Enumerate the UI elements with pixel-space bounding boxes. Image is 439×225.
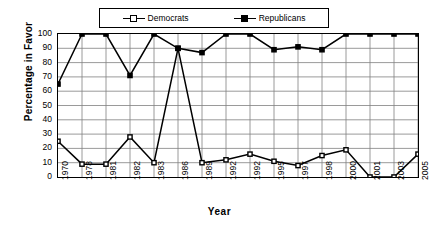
x-tick-label: 1982 <box>133 161 142 180</box>
x-tick-label: 1986 <box>181 161 190 180</box>
x-axis-title: Year <box>0 206 439 217</box>
y-tick-label: 90 <box>30 43 52 52</box>
x-tick-label: 2003 <box>397 161 406 180</box>
y-tick-label: 10 <box>30 158 52 167</box>
x-tick-label: 1981 <box>109 161 118 180</box>
y-tick-label: 30 <box>30 129 52 138</box>
x-tick-label: 1978 <box>85 161 94 180</box>
x-tick-label: 1989 <box>205 161 214 180</box>
chart-legend: Democrats Republicans <box>99 8 329 28</box>
y-tick-label: 80 <box>30 58 52 67</box>
line-chart: Democrats Republicans Percentage in Favo… <box>0 0 439 225</box>
legend-line-swatch-democrats <box>123 14 145 23</box>
legend-line-swatch-republicans <box>234 14 256 23</box>
y-tick-label: 50 <box>30 101 52 110</box>
grid-lines <box>58 34 418 177</box>
x-tick-label: 1997 <box>301 161 310 180</box>
x-tick-label: 1992 <box>253 161 262 180</box>
y-tick-label: 70 <box>30 72 52 81</box>
solid-square-marker-icon <box>241 15 248 22</box>
x-tick-label: 2000 <box>349 161 358 180</box>
chart-canvas <box>58 34 418 177</box>
x-tick-label: 1995 <box>277 161 286 180</box>
series-democrats <box>58 46 418 177</box>
legend-label-republicans: Republicans <box>259 14 306 23</box>
legend-entry-republicans: Republicans <box>234 14 306 23</box>
y-tick-label: 20 <box>30 143 52 152</box>
x-tick-label: 1992 <box>229 161 238 180</box>
y-tick-label: 100 <box>30 29 52 38</box>
y-tick-label: 40 <box>30 115 52 124</box>
x-tick-label: 1970 <box>61 161 70 180</box>
y-tick-label: 60 <box>30 86 52 95</box>
legend-label-democrats: Democrats <box>148 14 189 23</box>
x-tick-label: 2005 <box>421 161 430 180</box>
plot-area <box>57 33 419 178</box>
x-tick-label: 1998 <box>325 161 334 180</box>
legend-entry-democrats: Democrats <box>123 14 189 23</box>
y-tick-label: 0 <box>30 172 52 181</box>
series-republicans <box>58 34 418 86</box>
x-tick-label: 1983 <box>157 161 166 180</box>
hollow-square-marker-icon <box>130 15 137 22</box>
x-tick-label: 2001 <box>373 161 382 180</box>
